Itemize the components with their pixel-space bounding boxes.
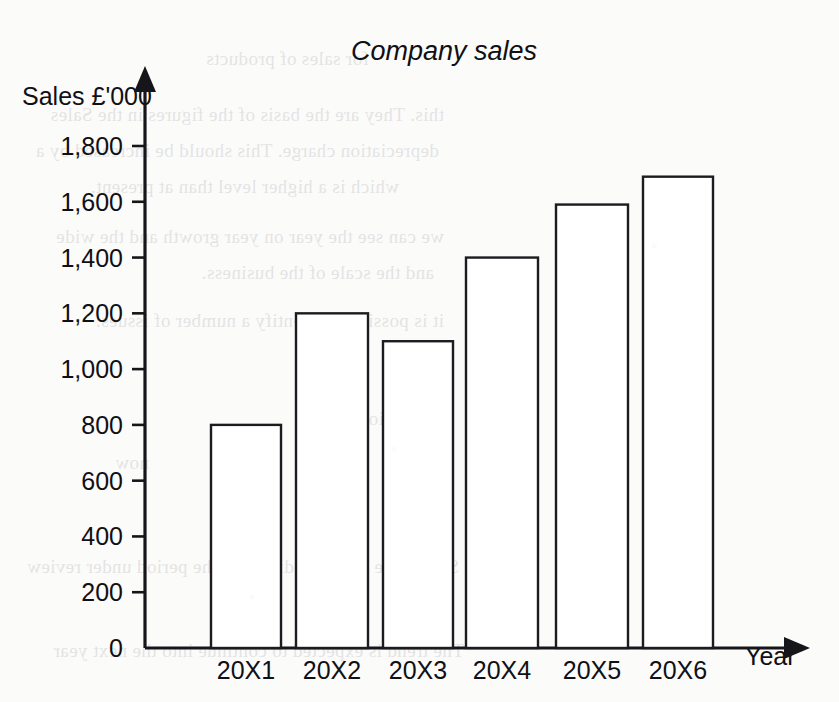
y-axis-tick-label: 1,000 xyxy=(60,355,123,383)
bar-20X4 xyxy=(466,258,538,648)
y-axis-tick-label: 200 xyxy=(81,578,123,606)
y-axis-tick-label: 1,800 xyxy=(60,132,123,160)
bar-20X6 xyxy=(643,177,713,648)
x-axis-label-20X1: 20X1 xyxy=(217,656,275,684)
x-axis-label-20X4: 20X4 xyxy=(473,656,531,684)
scanned-page: for sales of productsthis. They are the … xyxy=(0,0,839,702)
bar-series xyxy=(211,177,713,648)
x-axis-label-20X5: 20X5 xyxy=(563,656,621,684)
y-axis-tick-label: 600 xyxy=(81,467,123,495)
company-sales-bar-chart: Company sales Sales £'000 Year 020040060… xyxy=(0,0,839,702)
bar-20X1 xyxy=(211,425,281,648)
y-axis-ticks: 02004006008001,0001,2001,4001,6001,800 xyxy=(60,132,145,662)
x-axis-label-20X6: 20X6 xyxy=(649,656,707,684)
x-axis-category-labels: 20X120X220X320X420X520X6 xyxy=(217,656,707,684)
y-axis-tick-label: 800 xyxy=(81,411,123,439)
y-axis-arrow-icon xyxy=(134,66,156,92)
chart-title: Company sales xyxy=(351,36,537,66)
y-axis-tick-label: 1,400 xyxy=(60,244,123,272)
y-axis-tick-label: 0 xyxy=(109,634,123,662)
bar-20X2 xyxy=(296,313,368,648)
x-axis-label-20X3: 20X3 xyxy=(389,656,447,684)
y-axis-tick-label: 400 xyxy=(81,522,123,550)
x-axis-label-20X2: 20X2 xyxy=(303,656,361,684)
y-axis-tick-label: 1,200 xyxy=(60,299,123,327)
y-axis-tick-label: 1,600 xyxy=(60,188,123,216)
x-axis-arrow-icon xyxy=(784,637,810,659)
bar-20X5 xyxy=(556,205,628,648)
bar-20X3 xyxy=(383,341,453,648)
y-axis-title: Sales £'000 xyxy=(22,82,152,110)
